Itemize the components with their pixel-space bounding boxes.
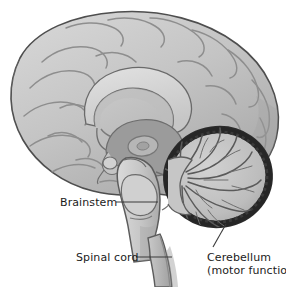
spinal-cord xyxy=(148,234,178,287)
label-cerebellum: Cerebellum (motor function) xyxy=(207,251,286,277)
label-cerebellum-title: Cerebellum xyxy=(207,251,271,264)
label-spinal-cord: Spinal cord xyxy=(76,251,138,264)
label-brainstem: Brainstem xyxy=(60,196,117,209)
label-cerebellum-subtitle: (motor function) xyxy=(207,264,286,277)
brain-anatomy-figure: Brainstem Spinal cord Cerebellum (motor … xyxy=(0,0,286,287)
brain-illustration xyxy=(0,0,286,287)
